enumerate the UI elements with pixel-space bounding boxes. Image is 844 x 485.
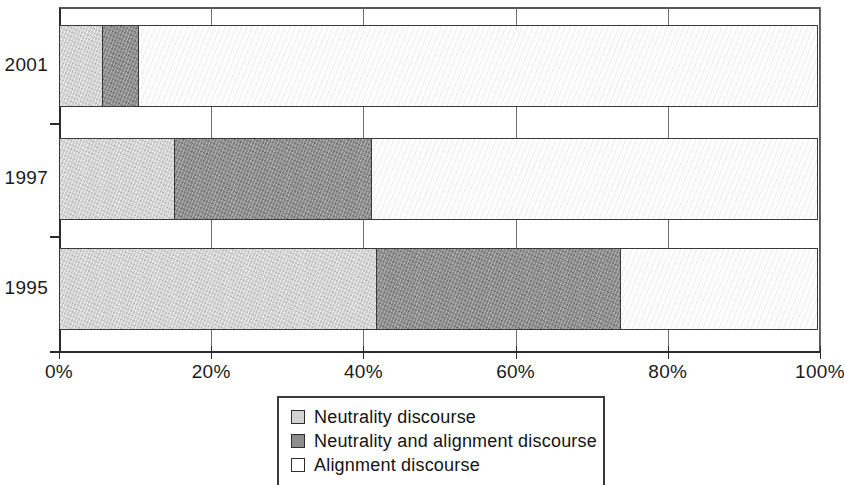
- y-axis-label-text: 1997: [0, 167, 48, 189]
- bar-2001: [59, 25, 820, 107]
- legend-item[interactable]: Alignment discourse: [291, 453, 593, 477]
- chart-legend: Neutrality discourseNeutrality and align…: [277, 396, 605, 485]
- bar-segment: [376, 248, 621, 330]
- bar-1995: [59, 248, 820, 330]
- x-axis-tick-label: 0%: [45, 361, 73, 383]
- y-axis-tick: [50, 351, 60, 353]
- y-axis-tick: [50, 123, 60, 125]
- legend-swatch-icon: [291, 410, 305, 424]
- legend-swatch-icon: [291, 458, 305, 472]
- y-axis-label-text: 1995: [0, 277, 48, 299]
- legend-item[interactable]: Neutrality discourse: [291, 405, 593, 429]
- x-axis-tick-label: 20%: [192, 361, 231, 383]
- x-gridline: [820, 7, 821, 352]
- legend-item-label: Alignment discourse: [314, 455, 480, 476]
- x-axis-tick-label: 100%: [795, 361, 844, 383]
- y-axis-label-text: 2001: [0, 54, 48, 76]
- legend-swatch-icon: [291, 434, 305, 448]
- bar-1997: [59, 138, 820, 220]
- legend-item-label: Neutrality discourse: [314, 407, 476, 428]
- y-axis-tick-label: 2001: [0, 54, 48, 76]
- bar-segment: [102, 25, 139, 107]
- x-axis-tick: [211, 346, 212, 359]
- legend-item[interactable]: Neutrality and alignment discourse: [291, 429, 593, 453]
- bar-segment: [620, 248, 818, 330]
- x-axis-tick: [820, 346, 821, 359]
- bar-segment: [371, 138, 818, 220]
- x-axis-tick: [363, 346, 364, 359]
- x-axis-tick: [516, 346, 517, 359]
- x-axis-tick-label: 60%: [496, 361, 535, 383]
- bar-segment: [174, 138, 373, 220]
- x-axis-tick-label: 80%: [648, 361, 687, 383]
- bar-segment: [59, 25, 103, 107]
- x-axis-tick: [668, 346, 669, 359]
- x-axis-line: [59, 351, 821, 353]
- y-axis-tick: [50, 236, 60, 238]
- legend-item-label: Neutrality and alignment discourse: [314, 431, 597, 452]
- chart-page: 0%20%40%60%80%100%200119971995 Neutralit…: [0, 0, 844, 485]
- x-axis-tick-label: 40%: [344, 361, 383, 383]
- bar-segment: [59, 138, 175, 220]
- bar-segment: [138, 25, 818, 107]
- y-axis-tick-label: 1997: [0, 167, 48, 189]
- bar-segment: [59, 248, 377, 330]
- y-axis-tick-label: 1995: [0, 277, 48, 299]
